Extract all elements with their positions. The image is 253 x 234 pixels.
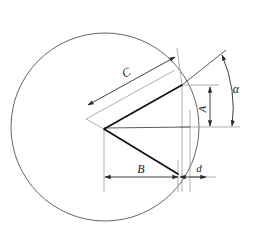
sector-chords <box>104 85 182 174</box>
dimension-d: d <box>180 162 206 177</box>
dim-d-label: d <box>196 162 202 174</box>
alpha-upper-ray <box>182 50 226 85</box>
dim-b-label: B <box>137 162 145 176</box>
dimension-alpha: α <box>222 55 240 126</box>
dim-c-line <box>88 57 175 105</box>
dimension-a: A <box>196 87 210 126</box>
dim-alpha-arc <box>222 55 233 126</box>
dimension-b: B <box>105 162 178 177</box>
dim-a-label: A <box>196 105 208 113</box>
dim-alpha-label: α <box>233 82 240 96</box>
chord-upper <box>104 85 182 129</box>
dim-c-witness-upper <box>177 48 182 85</box>
extension-lines <box>104 85 240 192</box>
axis-lines <box>104 50 226 128</box>
dim-c-label: C <box>119 64 134 81</box>
horizontal-radius-line <box>104 127 190 128</box>
dim-c-witness-lower <box>86 119 104 129</box>
diagram-canvas: C A α B d <box>0 0 253 234</box>
geometry-diagram: C A α B d <box>0 0 253 234</box>
dimension-c: C <box>86 48 182 129</box>
